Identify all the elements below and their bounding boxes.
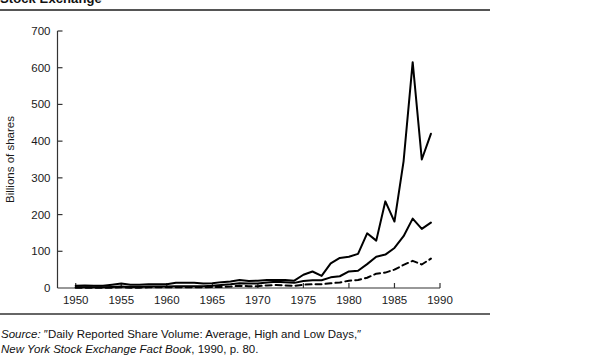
series-line-average-day — [76, 219, 431, 288]
source-article-title: ″Daily Reported Share Volume: Average, H… — [44, 328, 361, 340]
y-tick-label: 600 — [31, 62, 50, 74]
x-tick-label: 1990 — [427, 294, 453, 304]
chart-container: 0100200300400500600700195019551960196519… — [0, 14, 470, 304]
figure-page: Stock Exchange 0100200300400500600700195… — [0, 0, 591, 359]
y-tick-label: 100 — [31, 245, 50, 257]
title-divider-rule — [0, 9, 490, 11]
source-line-2: New York Stock Exchange Fact Book, 1990,… — [1, 342, 501, 357]
x-tick-label: 1975 — [291, 294, 317, 304]
x-tick-label: 1955 — [108, 294, 134, 304]
x-tick-label: 1965 — [200, 294, 226, 304]
footer-divider-rule — [0, 313, 490, 315]
y-tick-label: 300 — [31, 172, 50, 184]
x-tick-label: 1950 — [63, 294, 89, 304]
y-tick-label: 700 — [31, 25, 50, 37]
x-tick-label: 1985 — [382, 294, 408, 304]
page-title: Stock Exchange — [0, 0, 102, 6]
source-line-1: Source: ″Daily Reported Share Volume: Av… — [1, 327, 501, 342]
x-tick-label: 1960 — [154, 294, 180, 304]
line-chart: 0100200300400500600700195019551960196519… — [0, 14, 470, 304]
y-tick-label: 200 — [31, 209, 50, 221]
x-tick-label: 1970 — [245, 294, 271, 304]
y-tick-label: 0 — [44, 282, 50, 294]
series-line-high-day — [76, 62, 431, 286]
source-book-title: New York Stock Exchange Fact Book — [1, 343, 191, 355]
y-tick-label: 400 — [31, 135, 50, 147]
y-axis-title: Billions of shares — [4, 116, 16, 203]
x-tick-label: 1980 — [336, 294, 362, 304]
source-label: Source: — [1, 328, 41, 340]
source-note: Source: ″Daily Reported Share Volume: Av… — [1, 327, 501, 357]
y-tick-label: 500 — [31, 98, 50, 110]
source-citation-tail: , 1990, p. 80. — [191, 343, 258, 355]
